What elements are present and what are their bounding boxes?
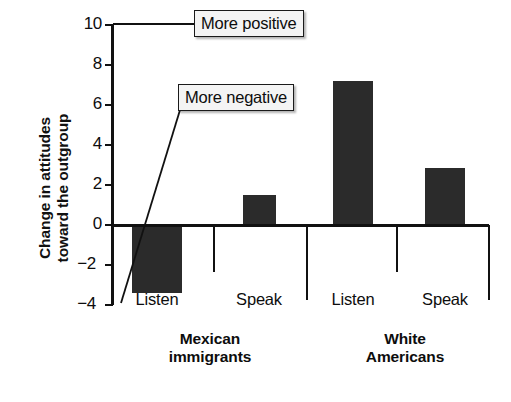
- x-label-mexican-listen: Listen: [117, 290, 197, 309]
- more-negative-callout: More negative: [178, 84, 294, 111]
- bar-white-listen: [333, 81, 373, 225]
- bar-mexican-listen: [132, 225, 182, 293]
- bar-chart-figure: Change in attitudes toward the outgroup …: [0, 0, 511, 402]
- bar-white-speak: [425, 168, 465, 225]
- x-group-label-mexican-immigrants: Mexican immigrants: [145, 330, 275, 366]
- x-group-label-white-americans: White Americans: [340, 330, 470, 366]
- x-label-white-speak: Speak: [405, 290, 485, 309]
- x-label-mexican-speak: Speak: [219, 290, 299, 309]
- more-positive-callout: More positive: [194, 10, 304, 37]
- x-label-white-listen: Listen: [313, 290, 393, 309]
- bar-mexican-speak: [243, 195, 276, 225]
